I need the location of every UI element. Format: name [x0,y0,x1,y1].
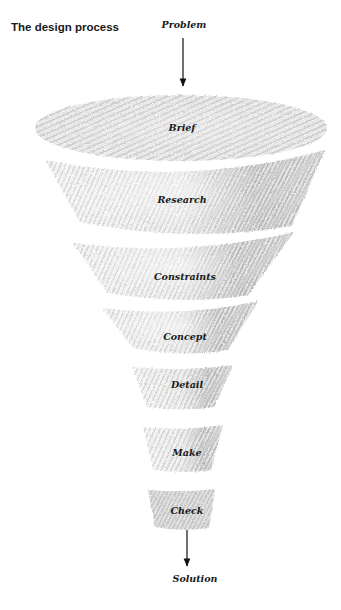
stage-label-make: Make [171,447,201,458]
problem-label: Problem [161,19,207,30]
stage-label-detail: Detail [170,379,203,390]
stage-label-constraints: Constraints [154,271,217,282]
stage-concept [102,301,258,354]
stage-label-concept: Concept [163,331,207,342]
funnel-diagram: The design process Problem Brief Researc… [0,0,341,610]
stage-label-research: Research [156,194,206,205]
stage-label-brief: Brief [168,122,198,133]
stage-research [45,150,325,234]
solution-label: Solution [173,573,218,584]
design-process-diagram: The design process Problem Brief Researc… [0,0,341,610]
diagram-title: The design process [11,21,119,33]
stage-constraints [73,232,294,300]
stage-label-check: Check [171,505,204,516]
